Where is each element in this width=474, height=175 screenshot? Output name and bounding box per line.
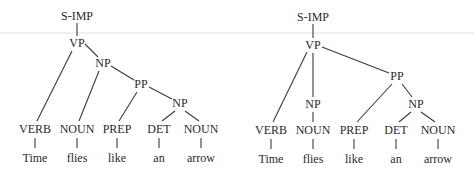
tree-node-pp: PP: [390, 69, 404, 83]
tree-edge: [119, 92, 137, 121]
tree-node-pp: PP: [134, 77, 148, 91]
tree-node-noun2: NOUN: [421, 123, 456, 137]
tree-leaf-word: flies: [67, 151, 88, 165]
tree-leaf-word: arrow: [424, 152, 452, 166]
tree-edge: [399, 112, 411, 122]
tree-node-np1: NP: [305, 97, 321, 111]
tree-edge: [185, 111, 199, 121]
tree-leaf-word: flies: [303, 152, 324, 166]
tree-leaf-word: an: [390, 152, 401, 166]
tree-edge: [273, 52, 307, 122]
tree-edge: [37, 51, 72, 121]
tree-node-verb: VERB: [255, 123, 287, 137]
tree-node-np2: NP: [408, 97, 424, 111]
tree-edge: [322, 47, 389, 73]
parse-tree-diagram: S-IMPVPNPPPNPVERBNOUNPREPDETNOUNTimeflie…: [0, 0, 474, 175]
tree-node-det: DET: [147, 122, 171, 136]
tree-node-prep: PREP: [103, 122, 132, 136]
tree-leaf-word: arrow: [187, 151, 215, 165]
tree-node-vp: VP: [69, 36, 85, 50]
tree-node-det: DET: [384, 123, 408, 137]
tree-edge: [79, 71, 99, 121]
tree-leaf-word: an: [153, 151, 164, 165]
tree-leaf-word: Time: [23, 151, 48, 165]
tree-node-noun2: NOUN: [184, 122, 219, 136]
tree-node-s: S-IMP: [61, 9, 93, 23]
tree-node-vp: VP: [305, 38, 321, 52]
tree-leaf-word: like: [108, 151, 126, 165]
tree-edge: [162, 111, 175, 121]
tree-edge: [149, 87, 172, 99]
tree-node-noun1: NOUN: [296, 123, 331, 137]
tree-edge: [357, 84, 392, 122]
tree-node-noun1: NOUN: [60, 122, 95, 136]
tree-edge: [421, 112, 435, 122]
tree-node-np1: NP: [95, 56, 111, 70]
tree-node-prep: PREP: [340, 123, 369, 137]
tree-leaf-word: Time: [259, 152, 284, 166]
tree-leaf-word: like: [345, 152, 363, 166]
tree-node-np2: NP: [172, 96, 188, 110]
tree-edge: [402, 84, 412, 97]
tree-node-s: S-IMP: [297, 10, 329, 24]
tree-node-verb: VERB: [19, 122, 51, 136]
tree-edge: [111, 66, 134, 80]
